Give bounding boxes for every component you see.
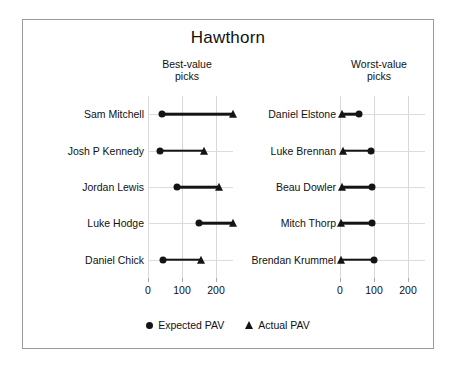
x-axis-tick-label: 0 (337, 284, 343, 296)
expected-pav-circle-marker (355, 111, 362, 118)
connector-line (160, 149, 204, 152)
connector-line (342, 186, 373, 189)
connector-line (163, 259, 200, 262)
actual-pav-triangle-marker (215, 183, 223, 191)
triangle-marker-icon (245, 321, 253, 329)
x-axis-tick-mark (374, 278, 375, 282)
x-axis-tick-mark (216, 278, 217, 282)
expected-pav-circle-marker (158, 111, 165, 118)
category-label: Brendan Krummel (251, 254, 336, 266)
category-label: Luke Brennan (271, 145, 336, 157)
circle-marker-icon (146, 322, 153, 329)
chart-legend: Expected PAV Actual PAV (23, 318, 433, 331)
category-label: Sam Mitchell (84, 108, 144, 120)
panel-heading-line2: picks (319, 70, 439, 82)
x-axis-tick-mark (340, 278, 341, 282)
category-label: Jordan Lewis (82, 181, 144, 193)
expected-pav-circle-marker (367, 147, 374, 154)
connector-line (341, 222, 373, 225)
panel-heading-best-value: Best-value picks (127, 58, 247, 82)
expected-pav-circle-marker (369, 184, 376, 191)
actual-pav-triangle-marker (337, 256, 345, 264)
x-axis-tick-label: 0 (145, 284, 151, 296)
x-axis-tick-label: 200 (207, 284, 225, 296)
plot-area-worst-value: 0100200Daniel ElstoneLuke BrennanBeau Do… (340, 96, 425, 278)
actual-pav-triangle-marker (338, 183, 346, 191)
legend-label: Actual PAV (258, 319, 310, 331)
chart-figure: Hawthorn Best-value picks Worst-value pi… (22, 19, 434, 349)
chart-title: Hawthorn (23, 28, 433, 48)
legend-label: Expected PAV (158, 319, 224, 331)
actual-pav-triangle-marker (197, 256, 205, 264)
actual-pav-triangle-marker (337, 219, 345, 227)
panel-heading-worst-value: Worst-value picks (319, 58, 439, 82)
plot-area-best-value: 0100200Sam MitchellJosh P KennedyJordan … (148, 96, 233, 278)
x-axis-tick-label: 100 (365, 284, 383, 296)
expected-pav-circle-marker (173, 184, 180, 191)
expected-pav-circle-marker (160, 256, 167, 263)
category-label: Mitch Thorp (281, 217, 336, 229)
actual-pav-triangle-marker (200, 146, 208, 154)
panel-worst-value: 0100200Daniel ElstoneLuke BrennanBeau Do… (229, 96, 425, 278)
category-label: Daniel Chick (85, 254, 144, 266)
x-axis-tick-label: 100 (173, 284, 191, 296)
panel-heading-line1: Best-value (127, 58, 247, 70)
expected-pav-circle-marker (196, 220, 203, 227)
category-label: Daniel Elstone (268, 108, 336, 120)
panel-heading-line2: picks (127, 70, 247, 82)
actual-pav-triangle-marker (339, 146, 347, 154)
category-label: Luke Hodge (87, 217, 144, 229)
legend-entry-expected-pav: Expected PAV (146, 318, 224, 331)
expected-pav-circle-marker (156, 147, 163, 154)
category-label: Beau Dowler (276, 181, 336, 193)
legend-entry-actual-pav: Actual PAV (245, 318, 310, 331)
x-axis-tick-mark (408, 278, 409, 282)
x-axis-tick-mark (148, 278, 149, 282)
connector-line (162, 113, 233, 116)
expected-pav-circle-marker (369, 220, 376, 227)
category-label: Josh P Kennedy (68, 145, 144, 157)
actual-pav-triangle-marker (338, 110, 346, 118)
connector-line (341, 259, 374, 262)
panel-heading-line1: Worst-value (319, 58, 439, 70)
panel-best-value: 0100200Sam MitchellJosh P KennedyJordan … (37, 96, 233, 278)
x-axis-tick-label: 200 (399, 284, 417, 296)
x-axis-tick-mark (182, 278, 183, 282)
connector-line (199, 222, 233, 225)
expected-pav-circle-marker (371, 256, 378, 263)
connector-line (177, 186, 220, 189)
